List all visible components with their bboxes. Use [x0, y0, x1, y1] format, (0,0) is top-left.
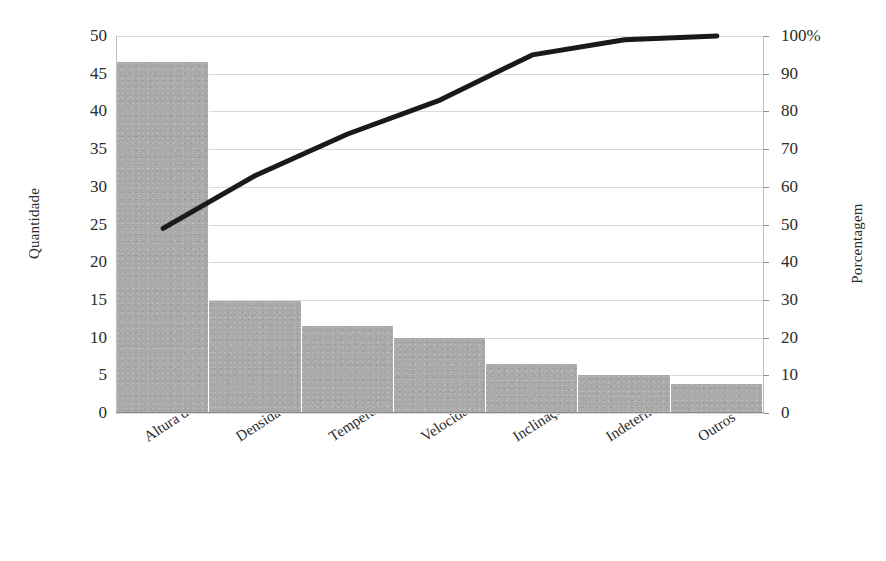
pareto-chart: Quantidade Porcentagem 05101520253035404… — [0, 0, 886, 561]
y-tick-label-left: 25 — [61, 216, 107, 233]
plot-area — [117, 36, 763, 413]
x-axis-line — [117, 412, 763, 413]
y-tick-label-right: 0 — [781, 404, 841, 421]
y-tick-label-right: 60 — [781, 178, 841, 195]
y-tick-label-left: 5 — [61, 366, 107, 383]
y-tick-label-left: 0 — [61, 404, 107, 421]
y-axis-line-left — [116, 36, 117, 414]
y-tick-label-right: 30 — [781, 291, 841, 308]
y-tick-label-left: 15 — [61, 291, 107, 308]
y-tick-label-right: 10 — [781, 366, 841, 383]
cumulative-percentage-line — [117, 36, 763, 413]
y-tick-label-right: 80 — [781, 102, 841, 119]
y-axis-title-left: Quantidade — [26, 154, 43, 294]
y-tick-label-right: 20 — [781, 329, 841, 346]
gridline — [117, 413, 763, 414]
y-tick-label-left: 20 — [61, 253, 107, 270]
y-tick-label-left: 35 — [61, 140, 107, 157]
x-axis-label: Outros — [695, 409, 739, 446]
y-axis-line-right — [763, 36, 764, 414]
y-tick-label-left: 45 — [61, 65, 107, 82]
y-tick-label-left: 10 — [61, 329, 107, 346]
y-tick-label-right: 50 — [781, 216, 841, 233]
y-tick-label-left: 50 — [61, 27, 107, 44]
y-tick-label-right: 70 — [781, 140, 841, 157]
y-tick-label-right: 40 — [781, 253, 841, 270]
y-tick-label-left: 40 — [61, 102, 107, 119]
y-tick-label-left: 30 — [61, 178, 107, 195]
y-axis-title-right: Porcentagem — [849, 169, 866, 319]
y-tick-label-right: 90 — [781, 65, 841, 82]
cumulative-line-path — [163, 36, 717, 228]
y-tick-label-right: 100% — [781, 27, 841, 44]
